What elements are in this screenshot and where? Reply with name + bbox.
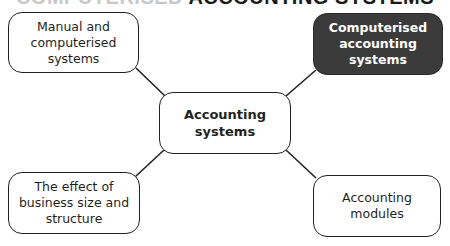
node-computerised-accounting-systems: Computerised accounting systems [313, 13, 443, 75]
connector-bottom-left [135, 150, 164, 177]
node-label: The effect of business size and structur… [15, 179, 133, 227]
connector-top-left [136, 68, 165, 96]
node-manual-and-computerised-systems: Manual and computerised systems [8, 12, 139, 73]
node-business-size-and-structure: The effect of business size and structur… [8, 172, 140, 234]
connector-bottom-right [286, 150, 316, 178]
node-label: Manual and computerised systems [15, 19, 132, 67]
connector-top-right [286, 70, 316, 96]
node-accounting-modules: Accounting modules [313, 175, 441, 237]
node-accounting-systems-center: Accounting systems [159, 92, 291, 154]
node-label: Computerised accounting systems [320, 20, 436, 68]
node-label: Accounting modules [320, 190, 434, 222]
node-label: Accounting systems [166, 106, 284, 140]
